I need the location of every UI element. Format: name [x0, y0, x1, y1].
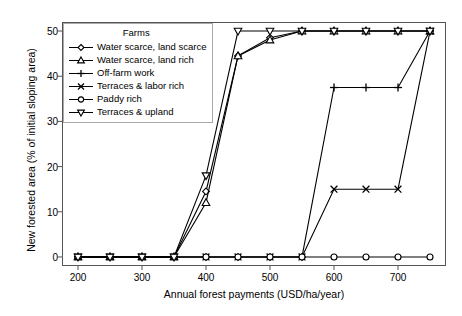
chart-figure: New forested area (% of initial sloping … — [0, 0, 462, 316]
legend-item-diamond[interactable]: Water scarce, land scarce — [68, 40, 206, 53]
x-tick-label: 200 — [70, 272, 87, 283]
chart-legend: Farms Water scarce, land scarceWater sca… — [63, 23, 213, 123]
y-axis-label: New forested area (% of initial sloping … — [25, 35, 37, 265]
legend-item-label: Terraces & labor rich — [94, 80, 184, 91]
y-tick-label: 20 — [47, 161, 58, 172]
y-tick-label: 0 — [52, 251, 58, 262]
x-tick-label: 400 — [198, 272, 215, 283]
legend-item-label: Off-farm work — [94, 67, 154, 78]
y-tick-label: 10 — [47, 206, 58, 217]
plus-marker-icon — [68, 66, 94, 79]
legend-item-label: Water scarce, land scarce — [94, 41, 206, 52]
legend-item-label: Water scarce, land rich — [94, 54, 194, 65]
x-tick-label: 700 — [390, 272, 407, 283]
legend-entries: Water scarce, land scarceWater scarce, l… — [68, 40, 206, 118]
x-axis-label: Annual forest payments (USD/ha/year) — [62, 288, 446, 300]
legend-item-label: Terraces & upland — [94, 106, 174, 117]
y-tick-label: 30 — [47, 116, 58, 127]
x-tick-label: 600 — [326, 272, 343, 283]
legend-item-triangle-down[interactable]: Terraces & upland — [68, 105, 206, 118]
cross-marker-icon — [68, 79, 94, 92]
legend-title: Farms — [68, 27, 206, 38]
legend-item-label: Paddy rich — [94, 93, 142, 104]
y-tick-label: 40 — [47, 71, 58, 82]
legend-item-circle[interactable]: Paddy rich — [68, 92, 206, 105]
x-tick-label: 500 — [262, 272, 279, 283]
legend-item-cross[interactable]: Terraces & labor rich — [68, 79, 206, 92]
triangle-down-marker-icon — [68, 105, 94, 118]
y-tick-label: 50 — [47, 26, 58, 37]
diamond-marker-icon — [68, 40, 94, 53]
triangle-up-marker-icon — [68, 53, 94, 66]
legend-item-plus[interactable]: Off-farm work — [68, 66, 206, 79]
circle-marker-icon — [68, 92, 94, 105]
legend-item-triangle-up[interactable]: Water scarce, land rich — [68, 53, 206, 66]
x-tick-label: 300 — [134, 272, 151, 283]
